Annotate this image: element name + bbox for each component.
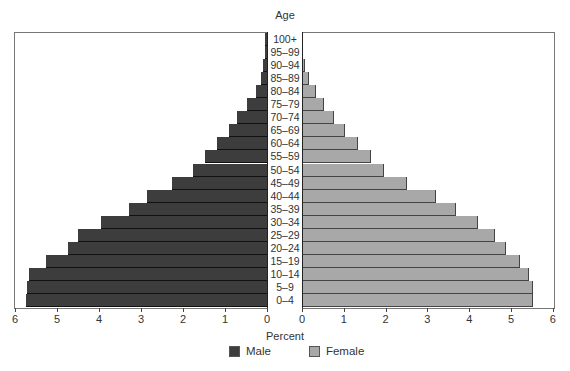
tick-mark bbox=[302, 308, 303, 312]
tick-label-left: 2 bbox=[173, 313, 193, 325]
male-bar bbox=[217, 137, 267, 150]
age-group-label: 45–49 bbox=[268, 177, 302, 190]
tick-mark bbox=[15, 308, 16, 312]
tick-label-left: 1 bbox=[215, 313, 235, 325]
tick-label-right: 0 bbox=[292, 313, 312, 325]
female-swatch-icon bbox=[309, 346, 320, 357]
tick-mark bbox=[469, 308, 470, 312]
age-group-label: 55–59 bbox=[268, 150, 302, 163]
female-bar bbox=[302, 164, 384, 177]
age-group-label: 100+ bbox=[268, 33, 302, 46]
male-bar bbox=[229, 124, 267, 137]
male-bar bbox=[193, 164, 267, 177]
female-bar bbox=[302, 85, 316, 98]
male-bar bbox=[247, 98, 267, 111]
female-bar bbox=[302, 72, 309, 85]
female-bar bbox=[302, 203, 456, 216]
tick-label-left: 5 bbox=[47, 313, 67, 325]
tick-mark bbox=[225, 308, 226, 312]
age-group-label: 5–9 bbox=[268, 281, 302, 294]
male-bar bbox=[27, 281, 267, 294]
tick-mark bbox=[183, 308, 184, 312]
age-group-label: 70–74 bbox=[268, 111, 302, 124]
female-bar bbox=[302, 137, 358, 150]
tick-mark bbox=[141, 308, 142, 312]
female-bar bbox=[302, 190, 436, 203]
age-group-label: 65–69 bbox=[268, 124, 302, 137]
male-bar bbox=[205, 150, 267, 163]
tick-label-left: 0 bbox=[257, 313, 277, 325]
tick-mark bbox=[267, 308, 268, 312]
tick-label-right: 3 bbox=[417, 313, 437, 325]
tick-label-right: 4 bbox=[459, 313, 479, 325]
age-group-label: 85–89 bbox=[268, 72, 302, 85]
legend-label-female: Female bbox=[326, 345, 364, 357]
tick-mark bbox=[553, 308, 554, 312]
tick-mark bbox=[57, 308, 58, 312]
age-group-label: 30–34 bbox=[268, 216, 302, 229]
tick-mark bbox=[386, 308, 387, 312]
female-bar bbox=[302, 98, 324, 111]
tick-mark bbox=[344, 308, 345, 312]
legend: Male Female bbox=[229, 345, 402, 357]
age-group-label: 35–39 bbox=[268, 203, 302, 216]
age-group-label: 40–44 bbox=[268, 190, 302, 203]
female-bar bbox=[302, 268, 529, 281]
male-bar bbox=[172, 177, 267, 190]
legend-item-male: Male bbox=[229, 345, 271, 357]
male-bar bbox=[256, 85, 267, 98]
male-bar bbox=[101, 216, 267, 229]
age-group-label: 50–54 bbox=[268, 164, 302, 177]
age-group-label: 0–4 bbox=[268, 294, 302, 307]
female-bar bbox=[302, 150, 371, 163]
age-axis-title: Age bbox=[0, 9, 570, 21]
male-bar bbox=[129, 203, 267, 216]
tick-label-right: 5 bbox=[501, 313, 521, 325]
male-swatch-icon bbox=[229, 346, 240, 357]
age-group-label: 80–84 bbox=[268, 85, 302, 98]
male-bar bbox=[78, 229, 267, 242]
age-group-label: 60–64 bbox=[268, 137, 302, 150]
tick-label-right: 2 bbox=[376, 313, 396, 325]
female-bar bbox=[302, 255, 520, 268]
tick-mark bbox=[511, 308, 512, 312]
age-group-label: 95–99 bbox=[268, 46, 302, 59]
tick-mark bbox=[427, 308, 428, 312]
male-zero-axis bbox=[267, 32, 268, 308]
tick-label-right: 6 bbox=[543, 313, 563, 325]
age-group-label: 15–19 bbox=[268, 255, 302, 268]
male-bar bbox=[147, 190, 267, 203]
female-bar bbox=[302, 294, 533, 307]
female-bar bbox=[302, 216, 478, 229]
female-bar bbox=[302, 229, 495, 242]
tick-label-right: 1 bbox=[334, 313, 354, 325]
female-bar bbox=[302, 124, 345, 137]
age-group-label: 75–79 bbox=[268, 98, 302, 111]
legend-label-male: Male bbox=[246, 345, 271, 357]
female-bar bbox=[302, 242, 506, 255]
tick-mark bbox=[99, 308, 100, 312]
male-bar bbox=[237, 111, 267, 124]
female-zero-axis bbox=[302, 32, 303, 308]
age-group-label: 90–94 bbox=[268, 59, 302, 72]
legend-item-female: Female bbox=[309, 345, 364, 357]
female-bar bbox=[302, 177, 407, 190]
male-bar bbox=[68, 242, 267, 255]
male-bar bbox=[46, 255, 267, 268]
male-bar bbox=[29, 268, 267, 281]
tick-label-left: 4 bbox=[89, 313, 109, 325]
age-group-label: 10–14 bbox=[268, 268, 302, 281]
tick-label-left: 3 bbox=[131, 313, 151, 325]
tick-label-left: 6 bbox=[5, 313, 25, 325]
x-axis-title: Percent bbox=[0, 330, 570, 342]
female-bar bbox=[302, 281, 533, 294]
female-bar bbox=[302, 111, 334, 124]
age-group-label: 20–24 bbox=[268, 242, 302, 255]
age-group-label: 25–29 bbox=[268, 229, 302, 242]
male-bar bbox=[26, 294, 267, 307]
